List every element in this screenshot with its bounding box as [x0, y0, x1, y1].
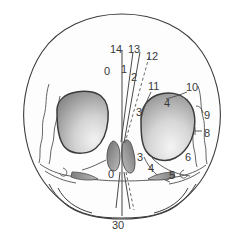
label-8: 8	[204, 128, 210, 139]
label-0-top: 0	[104, 66, 110, 77]
label-13: 13	[128, 44, 140, 55]
label-0-bottom: 0	[108, 169, 114, 180]
nasal-aperture-left	[107, 141, 120, 171]
label-10: 10	[186, 82, 198, 93]
label-3-upper: 3	[136, 107, 142, 118]
skull-diagram-figure: 14 13 12 0 1 2 11 10 4 3 9 8 3 6 4 0 5 3…	[0, 0, 245, 240]
label-1: 1	[121, 64, 127, 75]
label-9: 9	[204, 110, 210, 121]
label-4-lower: 4	[148, 163, 154, 174]
label-4-upper: 4	[164, 98, 170, 109]
label-3-lower: 3	[137, 152, 143, 163]
label-11: 11	[148, 81, 159, 92]
label-30: 30	[112, 220, 124, 231]
label-6: 6	[185, 152, 191, 163]
label-14: 14	[110, 44, 122, 55]
label-5: 5	[169, 170, 175, 181]
label-12: 12	[146, 51, 158, 62]
label-2: 2	[131, 72, 137, 83]
left-orbit	[57, 91, 108, 153]
